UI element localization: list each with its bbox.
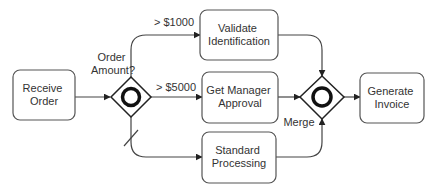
task-label-line: Standard — [215, 144, 260, 156]
task-label-line: Identification — [208, 35, 270, 47]
task-generate-invoice[interactable]: Generate Invoice — [360, 73, 424, 123]
flow-label-over-5000: > $5000 — [156, 81, 196, 93]
task-label-line: Validate — [218, 22, 257, 34]
merge-gateway[interactable] — [300, 76, 344, 119]
split-gateway[interactable] — [111, 77, 151, 117]
task-label-line: Generate — [368, 85, 414, 97]
task-label-line: Approval — [218, 97, 261, 109]
task-get-manager-approval[interactable]: Get Manager Approval — [202, 72, 278, 123]
task-standard-processing[interactable]: Standard Processing — [202, 132, 276, 183]
flow-label-over-1000: > $1000 — [154, 16, 194, 28]
bpmn-diagram: Receive Order Validate Identification Ge… — [0, 0, 438, 193]
task-validate-identification[interactable]: Validate Identification — [200, 10, 278, 60]
task-label-line: Invoice — [375, 98, 410, 110]
task-label-line: Order — [30, 95, 58, 107]
merge-gateway-label: Merge — [283, 116, 314, 128]
task-label-line: Get Manager — [206, 84, 271, 96]
flow-split-to-standard-default[interactable] — [131, 117, 202, 157]
flow-split-to-validate[interactable] — [131, 35, 200, 77]
task-label-line: Processing — [212, 157, 266, 169]
task-label-line: Receive — [23, 82, 63, 94]
split-gateway-label: Order Amount? — [91, 51, 135, 76]
svg-text:Generate Invoice: Generate Invoice — [368, 85, 417, 110]
svg-text:Standard Processing: Standard Processing — [212, 144, 266, 169]
flow-validate-to-merge[interactable] — [278, 35, 322, 76]
task-receive-order[interactable]: Receive Order — [13, 70, 75, 120]
